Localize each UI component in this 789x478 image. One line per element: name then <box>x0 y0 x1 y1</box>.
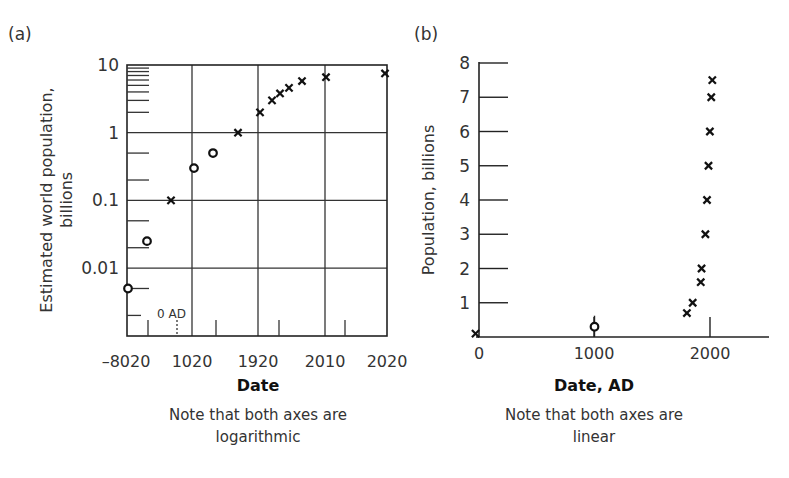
a-ytick-0-01: 0.01 <box>81 258 119 278</box>
b-xtick-2000: 2000 <box>690 344 731 363</box>
a-circle-point <box>209 149 217 157</box>
a-xtick-1020: 1020 <box>172 352 213 371</box>
chart-b-linear: 12345678 0 1000 2000 Date, AD Population… <box>419 53 769 446</box>
b-ytick-label: 6 <box>459 122 470 142</box>
b-cross-point <box>708 94 715 101</box>
panel-label-a: (a) <box>8 24 32 44</box>
a-y-axis-title-line1: Estimated world population, <box>37 87 56 312</box>
a-xtick-2020: 2020 <box>367 352 408 371</box>
a-circle-point <box>190 164 198 172</box>
chart-a-minor-ticks <box>127 68 345 336</box>
a-cross-point <box>285 84 292 91</box>
a-xtick-8020bc: –8020 <box>102 352 151 371</box>
a-ytick-0-1: 0.1 <box>92 190 119 210</box>
b-cross-point <box>706 128 713 135</box>
b-cross-point <box>705 162 712 169</box>
a-note-line2: logarithmic <box>216 428 301 446</box>
a-y-axis-title-line2: billions <box>57 172 76 228</box>
b-cross-point <box>683 309 690 316</box>
b-cross-point <box>689 299 696 306</box>
a-circle-point <box>143 237 151 245</box>
a-cross-point <box>276 90 283 97</box>
chart-a-data-points <box>124 70 388 292</box>
b-cross-point <box>698 265 705 272</box>
b-cross-point <box>703 196 710 203</box>
b-ytick-label: 5 <box>459 156 470 176</box>
a-ytick-10: 10 <box>97 55 119 75</box>
chart-b-data-points <box>472 77 716 338</box>
b-xtick-0: 0 <box>474 344 484 363</box>
a-cross-point <box>322 74 329 81</box>
b-circle-point <box>591 323 599 331</box>
b-ytick-label: 1 <box>459 293 470 313</box>
b-x-axis-title: Date, AD <box>554 376 634 395</box>
a-cross-point <box>268 97 275 104</box>
b-ytick-label: 3 <box>459 224 470 244</box>
a-note-line1: Note that both axes are <box>169 406 347 424</box>
b-y-axis-title: Population, billions <box>419 125 438 275</box>
a-circle-point <box>124 285 132 293</box>
figure: (a) (b) 10 1 0.1 0.01 –8020 1020 1920 20… <box>0 0 789 478</box>
b-note-line1: Note that both axes are <box>505 406 683 424</box>
panel-label-b: (b) <box>414 24 438 44</box>
a-xtick-2010: 2010 <box>305 352 346 371</box>
b-cross-point <box>709 77 716 84</box>
a-ytick-1: 1 <box>108 123 119 143</box>
chart-a-log-log: 10 1 0.1 0.01 –8020 1020 1920 2010 2020 … <box>37 55 407 446</box>
a-x-axis-title: Date <box>237 376 280 395</box>
b-cross-point <box>697 279 704 286</box>
chart-a-gridlines <box>127 65 387 336</box>
b-ytick-label: 4 <box>459 190 470 210</box>
a-cross-point <box>298 77 305 84</box>
b-ytick-label: 7 <box>459 87 470 107</box>
a-xtick-1920: 1920 <box>238 352 279 371</box>
a-zero-ad-annotation: 0 AD <box>157 307 186 321</box>
b-y-ticks: 12345678 <box>459 53 508 313</box>
b-note-line2: linear <box>573 428 616 446</box>
b-ytick-label: 8 <box>459 53 470 73</box>
b-ytick-label: 2 <box>459 259 470 279</box>
b-cross-point <box>472 330 479 337</box>
b-xtick-1000: 1000 <box>574 344 615 363</box>
b-cross-point <box>702 231 709 238</box>
